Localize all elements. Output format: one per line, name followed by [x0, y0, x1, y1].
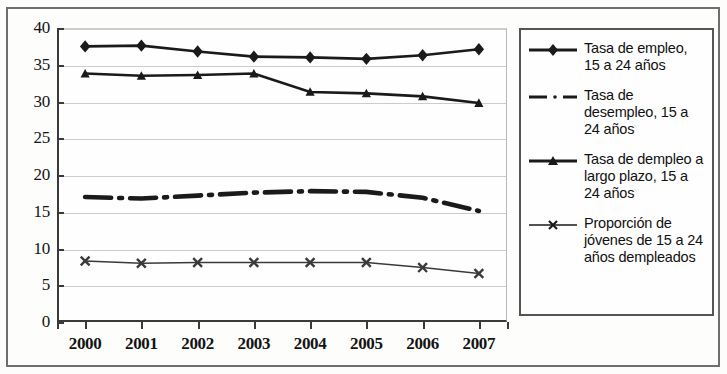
x-axis-tick-label: 2001 — [111, 334, 171, 354]
x-axis-tick-label: 2000 — [55, 334, 115, 354]
data-point-marker — [474, 43, 484, 55]
x-axis-tick-label: 2005 — [336, 334, 396, 354]
legend-item-label: Proporción de jóvenes de 15 a 24 años de… — [584, 215, 706, 266]
diamond-line-marker — [527, 41, 579, 59]
x-line-marker — [527, 216, 579, 234]
x-axis-tick-mark — [423, 322, 425, 329]
x-axis-tick-label: 2004 — [280, 334, 340, 354]
dash-dot-line-marker — [527, 88, 579, 106]
y-axis-tick-label: 15 — [6, 202, 50, 222]
legend-item-label: Tasa de dempleo a largo plazo, 15 a 24 a… — [584, 151, 706, 202]
data-point-marker — [361, 53, 371, 65]
x-axis-tick-label: 2007 — [449, 334, 509, 354]
x-axis-tick-mark — [254, 322, 256, 329]
data-point-marker — [192, 45, 202, 57]
x-axis-tick-mark — [310, 322, 312, 329]
data-point-marker — [417, 49, 427, 61]
x-axis-tick-mark — [366, 322, 368, 329]
y-axis-tick-label: 40 — [6, 18, 50, 38]
legend-item[interactable]: Tasa de dempleo a largo plazo, 15 a 24 a… — [527, 151, 706, 202]
data-point-marker — [136, 39, 146, 51]
x-axis-tick-mark — [141, 322, 143, 329]
x-axis-tick-label: 2002 — [168, 334, 228, 354]
series-plot — [57, 28, 507, 322]
data-point-marker — [80, 40, 90, 52]
data-point-marker — [305, 51, 315, 63]
y-axis-tick-label: 25 — [6, 128, 50, 148]
y-axis-tick-label: 30 — [6, 92, 50, 112]
x-axis-tick-label: 2003 — [224, 334, 284, 354]
data-point-marker — [249, 50, 259, 62]
x-axis-tick-mark — [85, 322, 87, 329]
legend-item-label: Tasa de empleo, 15 a 24 años — [584, 40, 706, 74]
x-axis-tick-mark — [198, 322, 200, 329]
y-axis-tick-label: 0 — [6, 312, 50, 332]
x-axis-tick-label: 2006 — [393, 334, 453, 354]
series-group — [81, 69, 484, 107]
x-axis-tick-mark — [507, 322, 509, 329]
x-axis-tick-labels: 20002001200220032004200520062007 — [57, 334, 507, 362]
y-axis-tick-labels: 0510152025303540 — [0, 28, 50, 322]
y-axis-tick-label: 5 — [6, 275, 50, 295]
legend-item-label: Tasa de desempleo, 15 a 24 años — [584, 87, 706, 138]
y-axis-tick-label: 35 — [6, 55, 50, 75]
legend-item[interactable]: Tasa de desempleo, 15 a 24 años — [527, 87, 706, 138]
triangle-line-marker — [527, 152, 579, 170]
series-line — [85, 191, 479, 211]
legend: Tasa de empleo, 15 a 24 añosTasa de dese… — [519, 28, 714, 316]
y-axis-tick-label: 20 — [6, 165, 50, 185]
series-group — [85, 191, 479, 211]
legend-item[interactable]: Tasa de empleo, 15 a 24 años — [527, 40, 706, 74]
chart-figure: 0510152025303540 20002001200220032004200… — [0, 0, 727, 374]
x-axis-tick-mark — [57, 322, 59, 329]
y-axis-tick-label: 10 — [6, 239, 50, 259]
series-group — [80, 39, 484, 65]
x-axis-tick-mark — [479, 322, 481, 329]
legend-item[interactable]: Proporción de jóvenes de 15 a 24 años de… — [527, 215, 706, 266]
series-group — [81, 257, 484, 278]
